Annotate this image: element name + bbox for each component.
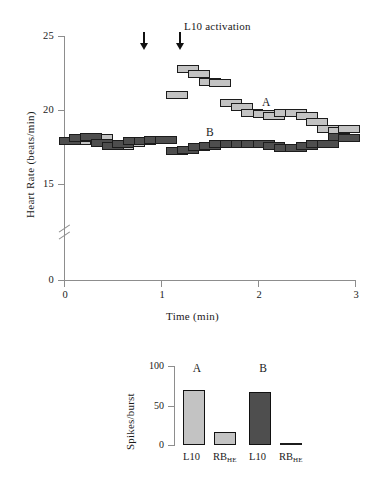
bar-xlabel-text: RB <box>279 451 293 462</box>
data-markers-layer <box>0 0 379 340</box>
bar-b-rb-he <box>280 443 302 445</box>
bar-xlabel-sub: HE <box>293 456 303 464</box>
bar-xlabel-text: RB <box>213 451 227 462</box>
data-marker-b <box>155 136 177 144</box>
data-marker-a <box>166 91 188 99</box>
bar-b-l10 <box>249 392 271 445</box>
bar-xlabel-b-rb: RBHE <box>279 451 303 462</box>
bar-xlabel-b-l10: L10 <box>249 451 266 462</box>
bar-xlabel-sub: HE <box>227 456 237 464</box>
data-marker-b <box>338 134 360 142</box>
bar-xlabel-text: L10 <box>249 451 266 462</box>
bar-a-l10 <box>183 390 205 445</box>
heart-rate-plot: 25 20 15 0 0 1 2 3 Heart Rate (beats/min… <box>0 0 379 340</box>
data-marker-b <box>317 140 339 148</box>
spikes-per-burst-chart: Spikes/burst 100 50 0 A B L10 RBHE L10 R… <box>0 352 379 477</box>
bar-xlabel-a-l10: L10 <box>183 451 200 462</box>
bar-a-rb-he <box>214 432 236 445</box>
figure-container: 25 20 15 0 0 1 2 3 Heart Rate (beats/min… <box>0 0 379 477</box>
bar-xlabel-text: L10 <box>183 451 200 462</box>
bar-xlabel-a-rb: RBHE <box>213 451 237 462</box>
data-marker-a <box>209 79 231 87</box>
